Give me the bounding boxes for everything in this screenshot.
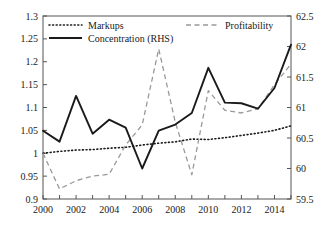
legend-label-profitability: Profitability	[225, 20, 273, 31]
chart-figure: 20002002200420062008201020122014 0.90.95…	[0, 0, 330, 226]
y-tick-label: 0.95	[21, 171, 39, 182]
x-tick-label: 2010	[198, 204, 218, 215]
y-tick-label: 1.25	[21, 33, 39, 44]
y-tick-label: 0.9	[26, 194, 39, 205]
y2-tick-label: 62.5	[296, 11, 314, 22]
y2-tick-label: 59.5	[296, 194, 314, 205]
x-tick-label: 2006	[132, 204, 152, 215]
y-tick-label: 1	[33, 148, 38, 159]
x-tick-label: 2012	[231, 204, 251, 215]
y-tick-label: 1.05	[21, 125, 39, 136]
y2-tick-label: 62	[296, 41, 306, 52]
y-tick-label: 1.2	[26, 56, 39, 67]
x-tick-label: 2004	[99, 204, 119, 215]
y2-tick-label: 61.5	[296, 72, 314, 83]
x-tick-label: 2008	[165, 204, 185, 215]
legend-label-concentration: Concentration (RHS)	[88, 33, 173, 45]
y-tick-label: 1.3	[26, 11, 39, 22]
x-tick-label: 2002	[66, 204, 86, 215]
y2-tick-label: 60.5	[296, 133, 314, 144]
x-tick-label: 2014	[264, 204, 284, 215]
line-chart: 20002002200420062008201020122014 0.90.95…	[0, 0, 330, 226]
y-tick-label: 1.15	[21, 79, 39, 90]
y2-tick-label: 60	[296, 163, 306, 174]
x-tick-label: 2000	[33, 204, 53, 215]
y-tick-label: 1.1	[26, 102, 39, 113]
legend-label-markups: Markups	[88, 20, 124, 31]
y2-tick-label: 61	[296, 102, 306, 113]
